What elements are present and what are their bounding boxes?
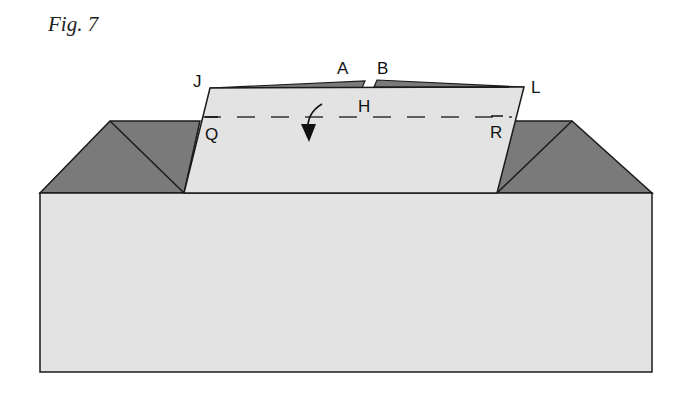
label-b: B (377, 59, 388, 78)
label-h: H (358, 97, 370, 116)
label-q: Q (205, 125, 218, 144)
label-r: R (490, 123, 502, 142)
left-dark-flap (40, 121, 200, 193)
main-paper-body (40, 193, 652, 372)
right-dark-flap (497, 121, 652, 193)
label-a: A (337, 59, 349, 78)
origami-diagram: J A B L H Q R (0, 0, 691, 400)
label-l: L (531, 78, 540, 97)
label-j: J (193, 72, 202, 91)
top-sliver-right (374, 80, 524, 87)
center-light-flap (184, 87, 524, 193)
